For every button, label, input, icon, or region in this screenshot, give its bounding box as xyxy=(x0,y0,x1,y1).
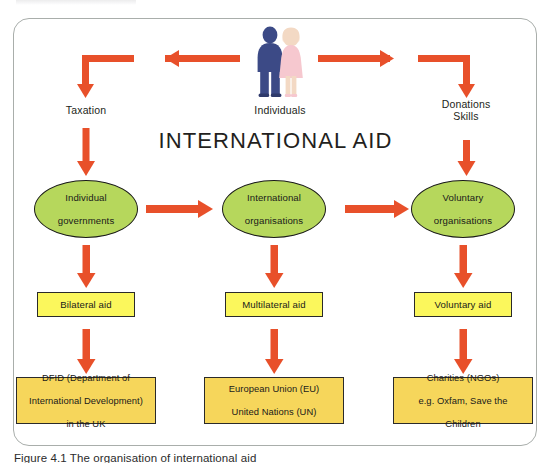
node-line-2: organisations xyxy=(434,215,492,227)
label-individuals: Individuals xyxy=(230,104,330,116)
box-line-2: e.g. Oxfam, Save the xyxy=(418,395,507,407)
box-line-1: Charities (NGOs) xyxy=(418,372,507,384)
box-eu-un-label: European Union (EU) United Nations (UN) xyxy=(229,383,320,418)
female-figure xyxy=(279,27,303,97)
label-taxation: Taxation xyxy=(36,104,136,116)
node-line-1: Individual xyxy=(58,192,115,204)
box-charities-label: Charities (NGOs) e.g. Oxfam, Save the Ch… xyxy=(418,372,507,430)
clipped-top-artifact xyxy=(16,0,136,5)
box-line-3: Children xyxy=(418,418,507,430)
node-line-1: Voluntary xyxy=(434,192,492,204)
box-line-2: International Development) xyxy=(29,395,143,407)
page-title: INTERNATIONAL AID xyxy=(0,128,551,154)
diagram-page: INTERNATIONAL AID Taxation Individuals D… xyxy=(0,0,551,463)
figure-caption: Figure 4.1 The organisation of internati… xyxy=(14,452,534,463)
box-line-3: in the UK xyxy=(29,418,143,430)
box-dfid[interactable]: DFID (Department of International Develo… xyxy=(16,377,156,424)
two-people-icon xyxy=(252,26,308,98)
box-line-1: DFID (Department of xyxy=(29,372,143,384)
node-voluntary-organisations-label: Voluntary organisations xyxy=(434,192,492,227)
node-voluntary-organisations[interactable]: Voluntary organisations xyxy=(411,180,515,238)
box-bilateral-aid[interactable]: Bilateral aid xyxy=(37,292,135,317)
label-skills: Skills xyxy=(416,110,516,122)
node-international-organisations[interactable]: International organisations xyxy=(222,180,326,238)
box-voluntary-aid-label: Voluntary aid xyxy=(435,299,492,310)
box-multilateral-aid[interactable]: Multilateral aid xyxy=(225,292,323,317)
label-donations-skills: Donations Skills xyxy=(416,98,516,122)
node-line-1: International xyxy=(245,192,303,204)
box-bilateral-aid-label: Bilateral aid xyxy=(60,299,111,310)
male-figure xyxy=(258,27,283,98)
box-eu-un[interactable]: European Union (EU) United Nations (UN) xyxy=(204,377,344,424)
box-charities[interactable]: Charities (NGOs) e.g. Oxfam, Save the Ch… xyxy=(393,377,533,424)
box-line-1: European Union (EU) xyxy=(229,383,320,395)
label-donations: Donations xyxy=(416,98,516,110)
node-international-organisations-label: International organisations xyxy=(245,192,303,227)
node-line-2: organisations xyxy=(245,215,303,227)
box-line-2: United Nations (UN) xyxy=(229,406,320,418)
box-dfid-label: DFID (Department of International Develo… xyxy=(29,372,143,430)
node-line-2: governments xyxy=(58,215,115,227)
box-multilateral-aid-label: Multilateral aid xyxy=(242,299,305,310)
node-individual-governments-label: Individual governments xyxy=(58,192,115,227)
node-individual-governments[interactable]: Individual governments xyxy=(34,180,138,238)
box-voluntary-aid[interactable]: Voluntary aid xyxy=(414,292,512,317)
